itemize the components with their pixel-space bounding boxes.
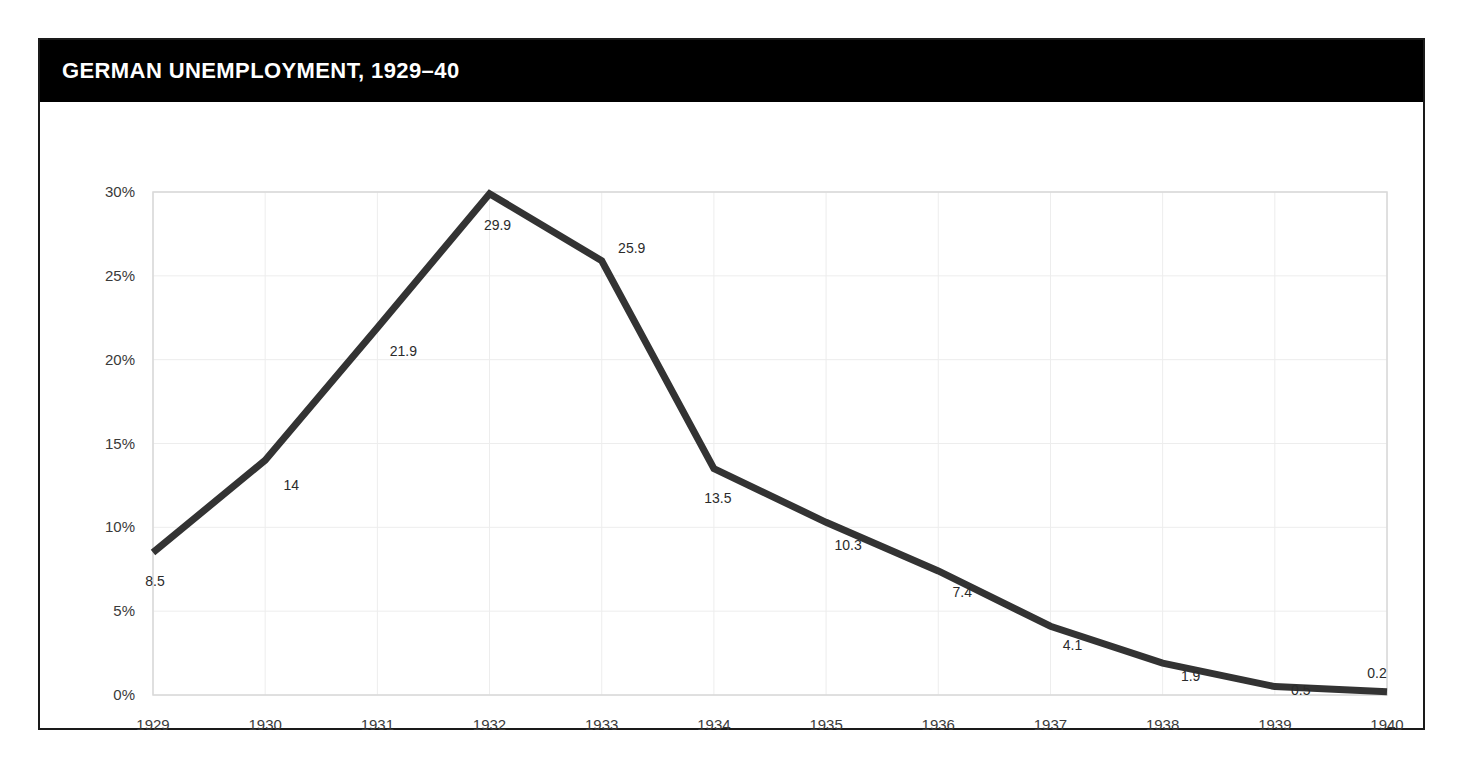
chart-title-bar: GERMAN UNEMPLOYMENT, 1929–40 [40,40,1423,102]
x-axis-tick-label: 1930 [248,716,281,730]
chart-title: GERMAN UNEMPLOYMENT, 1929–40 [40,58,460,84]
y-axis-tick-label: 25% [105,267,135,284]
x-axis-tick-label: 1938 [1146,716,1179,730]
x-axis-tick-label: 1937 [1034,716,1067,730]
plot-region: 0%5%10%15%20%25%30%192919301931193219331… [40,102,1423,728]
data-point-label: 0.2 [1367,665,1387,681]
y-axis-tick-label: 15% [105,435,135,452]
y-axis-tick-label: 5% [113,602,135,619]
x-axis-labels: 1929193019311932193319341935193619371938… [136,716,1403,730]
y-axis-tick-label: 10% [105,518,135,535]
x-axis-tick-label: 1936 [922,716,955,730]
x-axis-tick-label: 1934 [697,716,730,730]
x-axis-tick-label: 1939 [1258,716,1291,730]
data-point-label: 21.9 [390,343,417,359]
data-point-label: 4.1 [1063,637,1083,653]
data-point-label: 0.5 [1291,682,1311,698]
line-chart: 0%5%10%15%20%25%30%192919301931193219331… [40,102,1423,730]
x-axis-tick-label: 1932 [473,716,506,730]
y-axis-tick-label: 0% [113,686,135,703]
data-point-label: 1.9 [1181,668,1201,684]
x-axis-tick-label: 1931 [361,716,394,730]
data-point-label: 13.5 [704,490,731,506]
y-axis-tick-label: 20% [105,351,135,368]
gridlines [153,192,1387,695]
y-axis-labels: 0%5%10%15%20%25%30% [105,183,135,703]
y-axis-tick-label: 30% [105,183,135,200]
data-point-label: 10.3 [834,537,861,553]
data-point-label: 7.4 [953,584,973,600]
data-series-line [153,194,1387,692]
x-axis-tick-label: 1940 [1370,716,1403,730]
data-point-label: 29.9 [484,217,511,233]
x-axis-tick-label: 1929 [136,716,169,730]
data-point-label: 8.5 [145,573,165,589]
data-point-labels: 8.51421.929.925.913.510.37.44.11.90.50.2 [145,217,1387,698]
data-point-label: 14 [283,477,299,493]
x-axis-tick-label: 1933 [585,716,618,730]
chart-card: GERMAN UNEMPLOYMENT, 1929–40 0%5%10%15%2… [38,38,1425,730]
data-point-label: 25.9 [618,240,645,256]
x-axis-tick-label: 1935 [809,716,842,730]
